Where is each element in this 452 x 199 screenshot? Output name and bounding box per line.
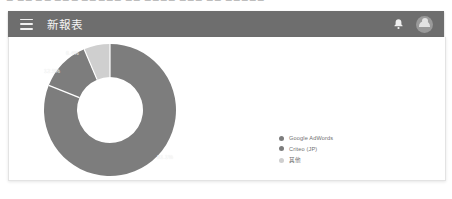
legend-item-label: Criteo (JP): [289, 146, 317, 152]
donut-chart-svg: [27, 40, 217, 180]
chart-legend: Google AdWords Criteo (JP) 其他: [279, 135, 333, 169]
donut-chart: 81.1% 12.5% 6.4%: [9, 37, 259, 180]
donut-label-criteo-jp: 12.5%: [44, 68, 60, 74]
legend-item-google-adwords[interactable]: Google AdWords: [279, 135, 333, 141]
user-avatar-icon[interactable]: [416, 16, 433, 33]
legend-item-label: 其他: [289, 156, 301, 164]
legend-item-criteo-jp[interactable]: Criteo (JP): [279, 146, 333, 152]
legend-item-other[interactable]: 其他: [279, 156, 333, 164]
legend-item-label: Google AdWords: [289, 135, 333, 141]
hamburger-menu-icon[interactable]: [20, 19, 33, 30]
truncated-top-text: ▭ ▭▭ ▭▭ ▭▭▭ ▭▭▭▭▭ ▭▭ ▭▭▭▭ ▭▭▭ ▭▭ ▭▭▭▭▭: [0, 0, 452, 9]
page-title: 新報表: [47, 16, 84, 32]
bell-icon[interactable]: [390, 16, 406, 32]
donut-label-other: 6.4%: [66, 50, 79, 56]
screenshot-root: ▭ ▭▭ ▭▭ ▭▭▭ ▭▭▭▭▭ ▭▭ ▭▭▭▭ ▭▭▭ ▭▭ ▭▭▭▭▭ 新…: [0, 0, 452, 199]
app-bar: 新報表: [8, 11, 444, 37]
donut-label-google-adwords: 81.1%: [157, 154, 173, 160]
avatar-head: [422, 18, 428, 24]
truncated-top-text-content: ▭ ▭▭ ▭▭ ▭▭▭ ▭▭▭▭▭ ▭▭ ▭▭▭▭ ▭▭▭ ▭▭ ▭▭▭▭▭: [6, 0, 266, 3]
legend-swatch-icon: [279, 158, 284, 163]
report-card: 81.1% 12.5% 6.4% Google AdWords Criteo (…: [8, 37, 446, 181]
legend-swatch-icon: [279, 146, 284, 151]
legend-swatch-icon: [279, 136, 284, 141]
